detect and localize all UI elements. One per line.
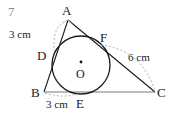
measure-label-ad: 3 cm [9,29,31,40]
vertex-label-b: B [31,86,40,99]
tangent-label-f: F [100,31,107,44]
incircle-center-label: O [76,68,85,80]
measure-label-be: 3 cm [46,99,68,110]
vertex-label-a: A [62,4,71,17]
measure-label-fc: 6 cm [128,52,150,63]
tangent-label-d: D [37,49,46,62]
geometry-figure: 7 A B C D F E O 3 cm 3 cm 6 cm [0,0,176,117]
problem-number: 7 [8,5,15,18]
vertex-label-c: C [157,86,166,99]
incircle-center-dot [80,61,83,64]
tangent-label-e: E [76,97,84,110]
